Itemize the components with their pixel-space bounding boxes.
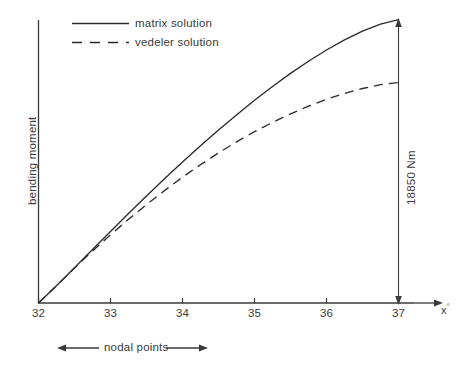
dimension-label-18850-nm: 18850 Nm xyxy=(404,150,418,205)
legend-label-matrix-solution: matrix solution xyxy=(135,17,212,29)
series-vedeler-solution-line xyxy=(39,83,399,304)
bending-moment-chart-figure: matrix solution vedeler solution bending… xyxy=(0,0,465,369)
x-tick-label-33: 33 xyxy=(104,307,117,319)
series-matrix-solution-line xyxy=(39,20,399,303)
y-axis-title: bending moment xyxy=(26,117,38,205)
nodal-points-arrow-left xyxy=(57,345,99,352)
x-tick-label-37: 37 xyxy=(392,307,405,319)
x-tick-label-36: 36 xyxy=(320,307,333,319)
legend-label-vedeler-solution: vedeler solution xyxy=(135,36,219,48)
x-axis-ticks xyxy=(39,298,399,303)
x-tick-label-34: 34 xyxy=(176,307,189,319)
x-axis-arrow xyxy=(414,300,443,307)
x-axis-title-superscript: ° xyxy=(447,303,450,310)
nodal-points-label: nodal points xyxy=(104,341,168,353)
x-tick-label-32: 32 xyxy=(32,307,45,319)
x-tick-label-35: 35 xyxy=(248,307,261,319)
nodal-points-arrow-right xyxy=(166,345,208,352)
x-axis-title: x° xyxy=(441,303,450,316)
dimension-line-18850 xyxy=(395,18,402,305)
